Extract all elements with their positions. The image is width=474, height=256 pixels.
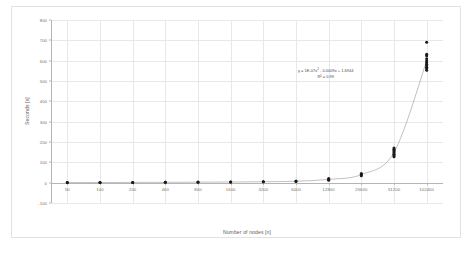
data-point-markers [66, 41, 428, 184]
data-point [425, 41, 428, 44]
y-tick-label: -100 [38, 201, 47, 206]
data-point [327, 177, 330, 180]
x-axis-title: Number of nodes [n] [51, 229, 443, 235]
y-tick-label: 500 [40, 79, 47, 84]
r-squared-text: R² = 0.99 [298, 74, 354, 80]
y-tick-label: 300 [40, 119, 47, 124]
data-layer [51, 20, 443, 203]
chart-frame: -1000100200300400500600700800 5010020040… [11, 6, 461, 238]
data-point [425, 57, 428, 60]
y-tick-label: 400 [40, 99, 47, 104]
plot-area: -1000100200300400500600700800 5010020040… [51, 20, 443, 203]
y-axis-title: Seconds [s] [24, 97, 30, 125]
y-tick-label: 100 [40, 160, 47, 165]
equation-text: y = 1E-07x2 - 0.0009x + 1.6944 [298, 67, 354, 74]
data-point [66, 181, 69, 184]
y-tick-label: 800 [40, 18, 47, 23]
y-tick-label: 600 [40, 58, 47, 63]
data-point [295, 180, 298, 183]
data-point [229, 180, 232, 183]
gridline-horizontal [51, 203, 443, 204]
data-point [360, 172, 363, 175]
trendline [67, 61, 426, 183]
data-point [393, 147, 396, 150]
y-tick-label: 700 [40, 38, 47, 43]
data-point [164, 181, 167, 184]
trendline-equation-annotation: y = 1E-07x2 - 0.0009x + 1.6944 R² = 0.99 [298, 67, 354, 80]
data-point [425, 53, 428, 56]
data-point [262, 180, 265, 183]
data-point [197, 181, 200, 184]
y-tick-label: 200 [40, 140, 47, 145]
data-point [99, 181, 102, 184]
y-tick-label: 0 [45, 180, 47, 185]
data-point [131, 181, 134, 184]
